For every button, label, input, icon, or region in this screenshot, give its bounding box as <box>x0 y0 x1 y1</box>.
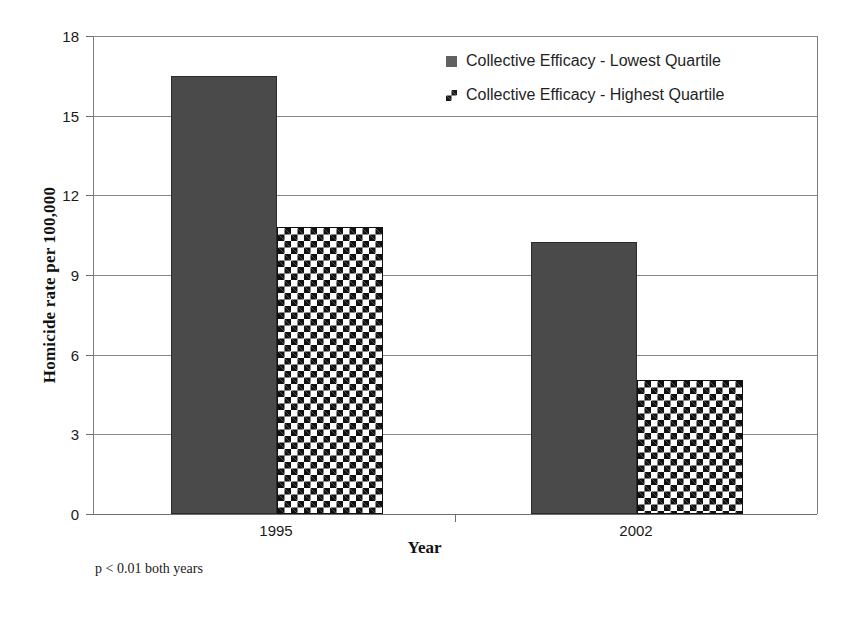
significance-note: p < 0.01 both years <box>95 561 203 577</box>
y-tick-label-9: 9 <box>71 267 79 284</box>
legend-entry-2: Collective Efficacy - Highest Quartile <box>446 78 786 112</box>
y-tick-label-6: 6 <box>71 346 79 363</box>
legend-entry-1: Collective Efficacy - Lowest Quartile <box>446 44 786 78</box>
y-tick-label-15: 15 <box>62 107 79 124</box>
y-tick-label-12: 12 <box>62 187 79 204</box>
chart-figure: 0369121518 Homicide rate per 100,000 199… <box>0 0 849 618</box>
x-tick-label-1995: 1995 <box>259 522 292 539</box>
y-tick-label-18: 18 <box>62 28 79 45</box>
bar-1995-lowest-quartile <box>171 76 277 514</box>
y-tick-mark-0 <box>86 514 94 515</box>
bar-2002-highest-quartile <box>637 380 743 514</box>
bar-2002-lowest-quartile <box>531 242 637 514</box>
gridline-18 <box>94 36 817 37</box>
y-axis-title: Homicide rate per 100,000 <box>40 85 60 485</box>
y-tick-label-0: 0 <box>71 506 79 523</box>
x-tick-mark-midpoint <box>455 514 456 522</box>
gridline-0 <box>94 514 817 515</box>
legend-checker-square-icon <box>446 90 457 101</box>
chart-legend: Collective Efficacy - Lowest QuartileCol… <box>446 44 786 112</box>
legend-label-2: Collective Efficacy - Highest Quartile <box>466 86 724 104</box>
legend-solid-square-icon <box>446 56 457 67</box>
bar-1995-highest-quartile <box>277 227 383 514</box>
x-axis-title: Year <box>0 538 849 558</box>
legend-label-1: Collective Efficacy - Lowest Quartile <box>466 52 721 70</box>
x-tick-label-2002: 2002 <box>619 522 652 539</box>
y-tick-label-3: 3 <box>71 426 79 443</box>
